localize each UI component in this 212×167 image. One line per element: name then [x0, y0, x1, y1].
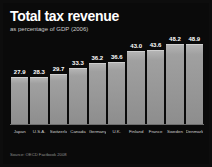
chart-title: Total tax revenue [10, 9, 203, 24]
bar-rect[interactable] [89, 63, 106, 125]
plot-area: 27.928.329.733.336.236.643.043.648.248.9… [10, 36, 204, 142]
category-label: Denmark [186, 129, 203, 135]
bar-rect[interactable] [108, 62, 125, 125]
bar-value-label: 43.0 [130, 43, 142, 50]
bar-value-label: 33.3 [72, 60, 84, 67]
bar-slot[interactable]: 33.3 [69, 36, 86, 125]
category-label: Finland [127, 129, 144, 135]
bar-rect[interactable] [166, 44, 183, 125]
bar-value-label: 36.6 [111, 54, 123, 61]
bar-value-label: 27.9 [14, 69, 26, 76]
bar-slot[interactable]: 27.9 [11, 36, 28, 125]
x-axis-line [10, 124, 204, 125]
bar-value-label: 48.9 [189, 36, 201, 43]
category-label: Switzerland [50, 129, 67, 135]
bar-value-label: 28.3 [33, 69, 45, 76]
bar-value-label: 43.6 [150, 42, 162, 49]
bar-slot[interactable]: 36.2 [89, 36, 106, 125]
bar-value-label: 29.7 [53, 66, 65, 73]
bar-slot[interactable]: 36.6 [108, 36, 125, 125]
bar-slot[interactable]: 28.3 [30, 36, 47, 125]
category-label: U.S.A. [30, 129, 47, 135]
category-label: France [147, 129, 164, 135]
category-label: U.K. [108, 129, 125, 135]
category-label: Sweden [166, 129, 183, 135]
bar-rect[interactable] [30, 77, 47, 125]
category-label: Canada [69, 129, 86, 135]
category-labels-container: JapanU.S.A.SwitzerlandCanadaGermanyU.K.F… [10, 126, 204, 142]
bar-rect[interactable] [69, 68, 86, 125]
bar-rect[interactable] [147, 50, 164, 125]
chart-header: Total tax revenue as percentage of GDP (… [10, 9, 203, 33]
category-label: Germany [89, 129, 106, 135]
bar-rect[interactable] [50, 74, 67, 125]
bar-slot[interactable]: 48.9 [186, 36, 203, 125]
bar-slot[interactable]: 43.0 [127, 36, 144, 125]
bar-slot[interactable]: 43.6 [147, 36, 164, 125]
tax-revenue-chart-card: Total tax revenue as percentage of GDP (… [0, 0, 212, 167]
bar-value-label: 48.2 [169, 36, 181, 43]
source-note: Source: OECD Factbook 2008 [10, 152, 67, 158]
chart-subtitle: as percentage of GDP (2006) [10, 25, 203, 33]
bar-rect[interactable] [186, 44, 203, 125]
bars-container: 27.928.329.733.336.236.643.043.648.248.9 [10, 36, 204, 125]
bar-value-label: 36.2 [91, 55, 103, 62]
category-label: Japan [11, 129, 28, 135]
bar-rect[interactable] [11, 77, 28, 125]
bar-slot[interactable]: 48.2 [166, 36, 183, 125]
bar-rect[interactable] [127, 51, 144, 125]
bar-slot[interactable]: 29.7 [50, 36, 67, 125]
